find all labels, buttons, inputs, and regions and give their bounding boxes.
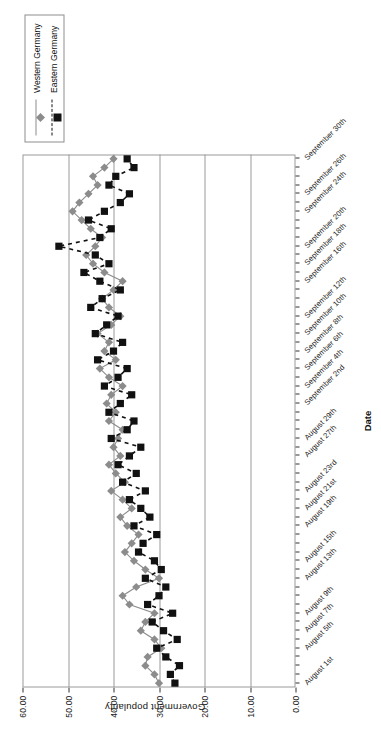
data-point-marker [100,207,107,214]
x-tick-mark [295,603,299,604]
data-point-marker [105,260,112,267]
x-tick-mark [295,647,299,648]
x-tick-mark [295,559,299,560]
x-tick-mark [295,420,299,421]
x-tick-mark [295,332,299,333]
chart-legend: Western Germany Eastern Germany [24,14,64,142]
x-tick-mark [295,385,299,386]
x-tick-mark [295,437,299,438]
x-tick-mark [295,682,299,683]
data-point-marker [159,627,166,634]
data-point-marker [119,338,126,345]
data-point-marker [155,592,162,599]
x-tick-mark [295,446,299,447]
chart-screenshot: 0.0010.0020.0030.0040.0050.0060.00 Gover… [0,0,381,741]
x-tick-mark [295,629,299,630]
data-point-marker [173,635,180,642]
y-axis: 0.0010.0020.0030.0040.0050.0060.00 Gover… [22,687,295,741]
x-tick-mark [295,262,299,263]
chart-figure: 0.0010.0020.0030.0040.0050.0060.00 Gover… [0,0,381,741]
x-tick-mark [295,271,299,272]
x-tick-mark [295,367,299,368]
x-tick-mark [295,454,299,455]
x-tick-mark [295,227,299,228]
data-point-marker [118,277,126,285]
x-tick-mark [295,393,299,394]
data-point-marker [100,268,108,276]
data-point-marker [87,303,94,310]
x-tick-mark [295,463,299,464]
x-tick-mark [295,594,299,595]
data-point-marker [125,600,133,608]
data-point-marker [144,600,151,607]
y-tick-mark [22,687,23,692]
data-point-marker [134,530,142,538]
data-point-marker [123,364,130,371]
x-tick-label: August 1st [302,654,334,686]
x-tick-mark [295,542,299,543]
x-tick-mark [295,184,299,185]
x-tick-mark [295,428,299,429]
y-tick-mark [250,687,251,692]
data-point-marker [55,242,62,249]
y-tick-mark [295,687,296,692]
data-point-marker [100,382,107,389]
legend-key-western-germany [30,99,41,135]
data-point-marker [125,496,132,503]
square-marker-icon [48,112,66,122]
data-point-marker [96,233,103,240]
x-tick-mark [295,192,299,193]
legend-label-eastern-germany: Eastern Germany [48,25,58,92]
x-tick-mark [295,612,299,613]
data-point-marker [141,565,149,573]
data-point-marker [162,583,169,590]
x-tick-mark [295,288,299,289]
data-point-marker [141,617,149,625]
data-point-marker [107,390,115,398]
x-tick-mark [295,664,299,665]
diamond-marker-icon [31,112,49,122]
x-tick-mark [295,201,299,202]
x-tick-mark [295,411,299,412]
data-point-marker [123,155,130,162]
x-tick-mark [295,551,299,552]
x-tick-mark [295,655,299,656]
x-tick-mark [295,620,299,621]
x-tick-mark [295,157,299,158]
data-point-marker [88,172,96,180]
data-point-marker [119,478,126,485]
x-tick-mark [295,315,299,316]
data-point-marker [130,164,137,171]
x-tick-mark [295,673,299,674]
x-tick-mark [295,253,299,254]
data-point-marker [107,225,114,232]
data-point-marker [137,443,144,450]
x-tick-mark [295,524,299,525]
x-tick-mark [295,166,299,167]
x-tick-mark [295,358,299,359]
data-point-marker [91,251,98,258]
x-tick-mark [295,472,299,473]
data-point-marker [150,609,158,617]
data-point-marker [162,653,169,660]
data-point-marker [153,530,160,537]
data-point-marker [171,679,178,686]
legend-key-eastern-germany [47,99,58,135]
legend-label-western-germany: Western Germany [31,23,41,93]
data-point-marker [116,286,123,293]
y-tick-label: 0.00 [290,695,300,712]
y-tick-mark [159,687,160,692]
data-point-marker [130,417,137,424]
y-tick-mark [113,687,114,692]
data-point-marker [143,652,151,660]
data-point-marker [93,180,101,188]
data-point-marker [154,574,162,582]
data-point-marker [134,548,141,555]
x-tick-mark [295,341,299,342]
x-tick-mark [295,175,299,176]
x-tick-mark [295,516,299,517]
data-point-marker [157,565,164,572]
data-point-marker [146,513,153,520]
series-line [58,158,179,682]
x-tick-mark [295,350,299,351]
